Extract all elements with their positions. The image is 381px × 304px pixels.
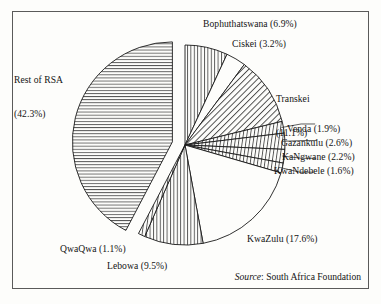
slice-label-rest-of-rsa-line1: Rest of RSA xyxy=(14,74,63,85)
source-value: South Africa Foundation xyxy=(266,271,361,282)
slice-label-venda: Venda (1.9%) xyxy=(287,123,340,134)
slice-label-lebowa: Lebowa (9.5%) xyxy=(107,260,167,271)
slice-label-kangwane: KaNgwane (2.2%) xyxy=(282,151,355,162)
slice-label-transkei-line1: Transkei xyxy=(276,93,310,104)
slice-label-ciskei: Ciskei (3.2%) xyxy=(232,38,286,49)
pie-chart-figure: Rest of RSA (42.3%) Bophuthatswana (6.9%… xyxy=(0,0,381,304)
slice-label-rest-of-rsa-line2: (42.3%) xyxy=(14,108,63,119)
slice-label-gazankulu: Gazankulu (2.6%) xyxy=(281,137,352,148)
source-label: Source xyxy=(235,271,261,282)
slice-label-rest-of-rsa: Rest of RSA (42.3%) xyxy=(14,52,63,142)
source-attribution: Source: South Africa Foundation xyxy=(235,271,361,282)
slice-label-qwaqwa: QwaQwa (1.1%) xyxy=(60,243,126,254)
pie-slices xyxy=(72,42,285,245)
slice-label-kwandebele: KwaNdebele (1.6%) xyxy=(274,165,354,176)
slice-label-bophuthatswana: Bophuthatswana (6.9%) xyxy=(203,18,297,29)
slice-label-kwazulu: KwaZulu (17.6%) xyxy=(247,233,318,244)
